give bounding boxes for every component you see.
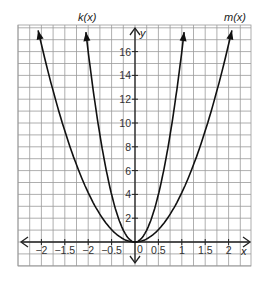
x-tick-label: −0.5 — [101, 244, 122, 256]
curve-arrowhead-icon — [83, 32, 90, 41]
annotations: k(x)m(x) — [78, 11, 246, 23]
x-axis-label: x — [240, 245, 247, 257]
x-tick-label: 1 — [179, 244, 185, 256]
y-tick-label: 10 — [119, 117, 131, 129]
tick-labels: 246810121416−2−1.5−2−0.500.511.52yx — [35, 27, 247, 257]
y-tick-label: 8 — [125, 141, 131, 153]
x-tick-label: −2 — [82, 244, 94, 256]
x-tick-label: 1.5 — [198, 244, 213, 256]
y-tick-label: 2 — [125, 212, 131, 224]
y-tick-label: 12 — [119, 93, 131, 105]
x-tick-label: 0.5 — [151, 244, 166, 256]
y-tick-label: 14 — [119, 69, 131, 81]
parabola-graph: 246810121416−2−1.5−2−0.500.511.52yx k(x)… — [0, 0, 265, 284]
y-tick-label: 16 — [119, 46, 131, 58]
y-tick-label: 4 — [125, 188, 131, 200]
x-tick-label: −1.5 — [54, 244, 75, 256]
x-tick-label: −2 — [35, 244, 47, 256]
x-tick-label: 2 — [226, 244, 232, 256]
curve-arrowhead-icon — [180, 32, 187, 41]
y-axis-label: y — [139, 27, 147, 39]
y-tick-label: 6 — [125, 165, 131, 177]
k-function-label: k(x) — [78, 11, 97, 23]
m-function-label: m(x) — [224, 11, 246, 23]
origin-label: 0 — [137, 243, 143, 255]
